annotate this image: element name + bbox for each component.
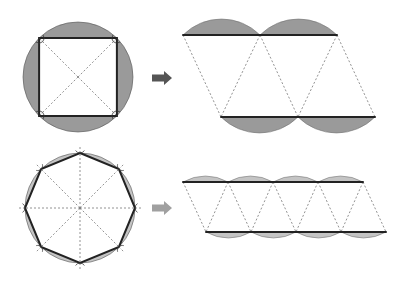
dashed-edge	[363, 182, 386, 232]
circle-segment-bottom	[298, 117, 375, 133]
octagon-in-circle-figure	[19, 147, 141, 269]
right-arrow-icon	[152, 201, 172, 215]
square-in-circle-figure	[23, 22, 133, 132]
right-arrow-icon	[152, 71, 172, 85]
dashed-edge	[228, 182, 251, 232]
arrow-shape	[152, 201, 172, 215]
dashed-edge	[221, 35, 260, 117]
octagon-segments-strip	[183, 176, 386, 238]
dashed-edge	[341, 182, 363, 232]
dashed-edge	[337, 35, 375, 117]
circle-segment-top	[183, 19, 260, 35]
dashed-edge	[260, 35, 298, 117]
dashed-extension	[37, 247, 41, 251]
dashed-edge	[183, 182, 206, 232]
dashed-extension	[119, 165, 123, 169]
dashed-edge	[183, 35, 221, 117]
dashed-edge	[298, 35, 337, 117]
dashed-edge	[206, 182, 228, 232]
circle-segment-bottom	[221, 117, 298, 133]
dashed-edge	[318, 182, 341, 232]
circle-segment-top	[260, 19, 337, 35]
arrow-shape	[152, 71, 172, 85]
dashed-edge	[296, 182, 318, 232]
diagram-canvas	[0, 0, 407, 281]
dashed-extension	[119, 247, 123, 251]
dashed-edge	[251, 182, 273, 232]
square-segments-strip	[183, 19, 375, 133]
dashed-edge	[273, 182, 296, 232]
dashed-extension	[37, 165, 41, 169]
